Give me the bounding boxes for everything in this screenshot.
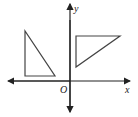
origin-label: O xyxy=(60,84,67,95)
y-axis-label: y xyxy=(73,3,79,14)
left-triangle xyxy=(25,31,55,76)
coordinate-diagram: y x O xyxy=(0,0,138,117)
right-triangle xyxy=(76,36,120,67)
x-axis-label: x xyxy=(124,84,130,95)
